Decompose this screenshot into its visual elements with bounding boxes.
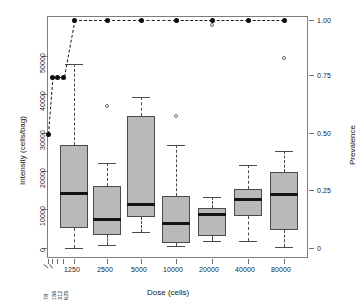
prevalence-point-2500	[105, 18, 110, 23]
whisker-cap-lower	[98, 245, 116, 246]
prevalence-line-segment	[176, 20, 212, 21]
box-iqr	[162, 196, 190, 243]
x-tick-10000	[176, 259, 177, 264]
prevalence-point-312	[55, 75, 60, 80]
x-tick-40000	[248, 259, 249, 264]
whisker-cap-upper	[239, 165, 257, 166]
whisker-lower	[74, 228, 75, 248]
whisker-cap-lower	[65, 248, 83, 249]
whisker-cap-lower	[132, 232, 150, 233]
x-tick-625	[63, 259, 64, 264]
x-tick-label-20000: 20000	[199, 266, 219, 273]
x-axis-title: Dose (cells)	[147, 288, 189, 297]
prevalence-line-segment	[107, 20, 141, 21]
whisker-cap-lower	[239, 241, 257, 242]
y-tick-label-10000: 10000	[39, 206, 46, 226]
median-line	[60, 192, 88, 194]
x-tick-2500	[107, 259, 108, 264]
x-tick-label-10000: 10000	[163, 266, 183, 273]
x-tick-312	[57, 259, 58, 264]
median-line	[162, 222, 190, 224]
x-tick-label-80000: 80000	[271, 266, 291, 273]
median-line	[234, 198, 262, 200]
box-iqr	[234, 189, 262, 215]
x-tick-label-40000: 40000	[235, 266, 255, 273]
whisker-cap-lower	[167, 246, 185, 247]
x-tick-1250	[74, 259, 75, 264]
whisker-lower	[284, 230, 285, 247]
median-line	[270, 193, 298, 195]
whisker-upper	[248, 165, 249, 190]
whisker-cap-lower	[275, 247, 293, 248]
y2-tick-label-0: 0	[317, 245, 321, 252]
y-tick-label-0: 0	[39, 248, 46, 252]
y2-tick-label-100: 1.00	[317, 17, 331, 24]
box-iqr	[60, 145, 88, 228]
x-tick-5000	[141, 259, 142, 264]
y-tick-label-30000: 30000	[39, 130, 46, 150]
y2-tick-100	[309, 20, 314, 21]
whisker-cap-lower	[203, 241, 221, 242]
box-iqr	[270, 172, 298, 230]
y2-tick-label-050: 0.50	[317, 130, 331, 137]
x-tick-80000	[284, 259, 285, 264]
whisker-upper	[212, 197, 213, 208]
whisker-cap-upper	[203, 197, 221, 198]
whisker-cap-upper	[167, 145, 185, 146]
prevalence-point-20000	[210, 18, 215, 23]
x-tick-label-2500: 2500	[97, 266, 113, 273]
whisker-upper	[284, 151, 285, 173]
x-tick-label-78: 78	[43, 294, 49, 300]
outlier-point	[282, 56, 286, 60]
whisker-lower	[248, 216, 249, 241]
y2-tick-0	[309, 248, 314, 249]
box-iqr	[127, 116, 155, 217]
y-axis-title: Intensity (cells/bag)	[18, 116, 27, 185]
prevalence-line-segment	[74, 20, 107, 21]
prevalence-line-segment	[248, 20, 284, 21]
prevalence-point-625	[61, 75, 66, 80]
y2-axis-title: Prevalence	[348, 125, 357, 165]
x-tick-label-5000: 5000	[131, 266, 147, 273]
y-tick-label-50000: 50000	[39, 53, 46, 73]
whisker-upper	[176, 145, 177, 196]
outlier-point	[174, 114, 178, 118]
y2-tick-075	[309, 75, 314, 76]
median-line	[93, 218, 121, 220]
prevalence-point-10000	[174, 18, 179, 23]
x-tick-label-1250: 1250	[64, 266, 80, 273]
box-iqr	[93, 186, 121, 235]
whisker-cap-upper	[65, 64, 83, 65]
outlier-point	[105, 104, 109, 108]
x-leader-156	[49, 264, 53, 269]
prevalence-point-40000	[246, 18, 251, 23]
prevalence-line-segment	[141, 20, 176, 21]
prevalence-point-1250	[72, 18, 77, 23]
whisker-lower	[141, 217, 142, 232]
x-tick-156	[52, 259, 53, 264]
whisker-cap-upper	[132, 97, 150, 98]
y2-tick-label-025: 0.25	[317, 187, 331, 194]
y-tick-label-20000: 20000	[39, 168, 46, 188]
prevalence-point-80000	[282, 18, 287, 23]
prevalence-point-5000	[139, 18, 144, 23]
whisker-upper	[141, 97, 142, 115]
prevalence-point-78	[46, 132, 51, 137]
whisker-upper	[74, 64, 75, 145]
y2-tick-050	[309, 133, 314, 134]
y2-tick-label-075: 0.75	[317, 72, 331, 79]
whisker-upper	[107, 163, 108, 186]
whisker-cap-upper	[275, 151, 293, 152]
whisker-cap-upper	[98, 163, 116, 164]
median-line	[198, 213, 226, 215]
x-tick-20000	[212, 259, 213, 264]
x-leader-78	[43, 264, 48, 269]
y-tick-label-40000: 40000	[39, 91, 46, 111]
y2-tick-025	[309, 190, 314, 191]
median-line	[127, 203, 155, 205]
prevalence-line-segment	[212, 20, 248, 21]
whisker-lower	[107, 235, 108, 245]
x-tick-label-625: 625	[63, 291, 69, 300]
